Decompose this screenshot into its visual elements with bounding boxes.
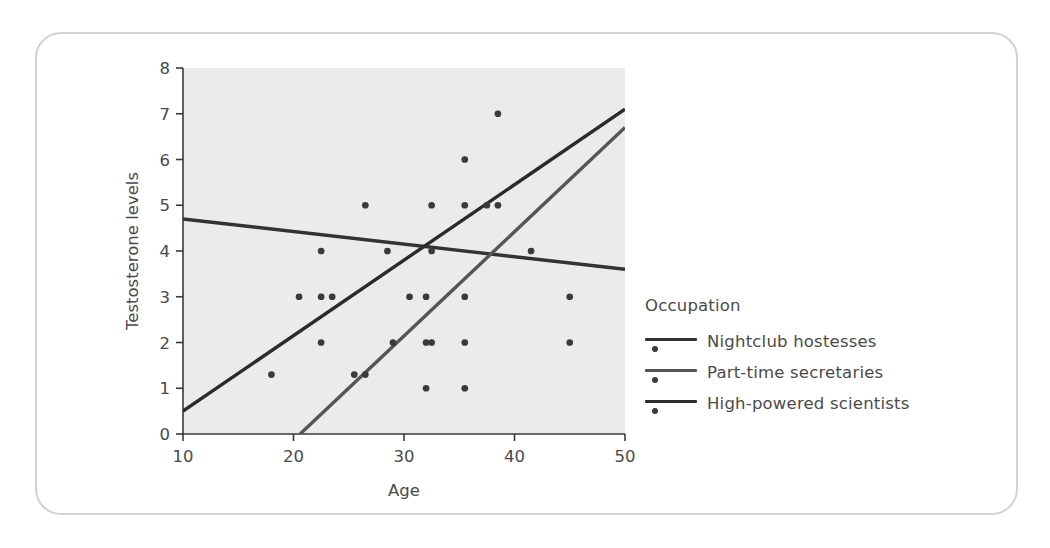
legend-item-label: High-powered scientists [707, 394, 910, 413]
data-point [495, 110, 502, 117]
legend-dot-icon [652, 408, 658, 414]
data-point [528, 248, 535, 255]
data-point [461, 156, 468, 163]
y-tick-label: 5 [160, 196, 171, 215]
data-point [362, 202, 369, 209]
data-point [318, 293, 325, 300]
legend-item-label: Part-time secretaries [707, 363, 883, 382]
legend-line-icon [645, 338, 697, 341]
plot-background [183, 68, 625, 434]
x-tick-label: 20 [283, 447, 304, 466]
data-point [329, 293, 336, 300]
y-axis-title: Testosterone levels [123, 172, 142, 331]
y-tick-label: 0 [160, 425, 171, 444]
legend-key-icon [645, 391, 697, 417]
data-point [423, 293, 430, 300]
legend-key-icon [645, 360, 697, 386]
legend: Occupation Nightclub hostessesPart-time … [645, 296, 975, 419]
data-point [566, 293, 573, 300]
legend-line-icon [645, 400, 697, 403]
data-point [268, 371, 275, 378]
data-point [406, 293, 413, 300]
data-point [495, 202, 502, 209]
x-tick-label: 40 [504, 447, 525, 466]
legend-dot-icon [652, 346, 658, 352]
x-tick-label: 10 [173, 447, 194, 466]
legend-dot-icon [652, 377, 658, 383]
x-axis-title: Age [388, 481, 420, 500]
x-tick-label: 30 [394, 447, 415, 466]
data-point [484, 202, 491, 209]
x-tick-label: 50 [615, 447, 636, 466]
legend-key-icon [645, 329, 697, 355]
y-tick-label: 4 [160, 242, 171, 261]
data-point [318, 248, 325, 255]
data-point [461, 385, 468, 392]
y-tick-label: 8 [160, 59, 171, 78]
legend-item[interactable]: Nightclub hostesses [645, 326, 975, 357]
legend-item[interactable]: High-powered scientists [645, 388, 975, 419]
data-point [461, 339, 468, 346]
plot-area: 0123456781020304050AgeTestosterone level… [123, 59, 636, 500]
y-tick-label: 3 [160, 288, 171, 307]
data-point [461, 202, 468, 209]
data-point [390, 339, 397, 346]
y-tick-label: 7 [160, 105, 171, 124]
y-tick-label: 6 [160, 151, 171, 170]
legend-title: Occupation [645, 296, 975, 315]
legend-item[interactable]: Part-time secretaries [645, 357, 975, 388]
data-point [351, 371, 358, 378]
data-point [384, 248, 391, 255]
y-tick-label: 2 [160, 334, 171, 353]
legend-line-icon [645, 369, 697, 372]
data-point [566, 339, 573, 346]
data-point [428, 339, 435, 346]
chart-svg: 0123456781020304050AgeTestosterone level… [0, 0, 1050, 548]
data-point [296, 293, 303, 300]
data-point [318, 339, 325, 346]
data-point [428, 202, 435, 209]
data-point [362, 371, 369, 378]
data-point [423, 385, 430, 392]
y-tick-label: 1 [160, 379, 171, 398]
data-point [461, 293, 468, 300]
legend-items: Nightclub hostessesPart-time secretaries… [645, 326, 975, 419]
data-point [428, 248, 435, 255]
scatter-chart: 0123456781020304050AgeTestosterone level… [0, 0, 1050, 548]
legend-item-label: Nightclub hostesses [707, 332, 877, 351]
